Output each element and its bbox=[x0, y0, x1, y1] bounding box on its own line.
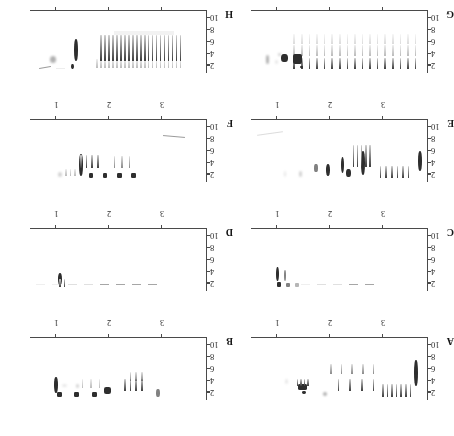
peak-blob bbox=[104, 387, 111, 394]
x-tick-label: 3 bbox=[160, 101, 164, 110]
peak-streak bbox=[56, 68, 65, 69]
x-tick-label: 1 bbox=[275, 0, 279, 1]
peak-comb bbox=[126, 372, 143, 381]
spectrum-panel-f[interactable]: 3 2 1 2 4 6 8 10 F bbox=[0, 109, 221, 218]
x-tick-label: 3 bbox=[381, 0, 385, 1]
spectrum-panel-d[interactable]: 3 2 1 2 4 6 8 10 D bbox=[0, 218, 221, 327]
peak-smear bbox=[275, 60, 278, 64]
peak-comb bbox=[379, 384, 411, 397]
y-tick-label: 8 bbox=[431, 353, 445, 362]
peak-streak bbox=[39, 66, 51, 69]
spectrum-panel-g[interactable]: 4 3 2 1 2 4 6 8 10 G kHz bbox=[221, 0, 442, 109]
peak-comb bbox=[295, 379, 309, 386]
peak-smear bbox=[323, 392, 327, 396]
x-tick-label: 1 bbox=[54, 0, 58, 1]
peak-blob bbox=[418, 151, 422, 171]
peak-comb bbox=[328, 379, 374, 391]
peak-comb bbox=[98, 35, 182, 61]
y-tick-label: 6 bbox=[431, 147, 445, 156]
peak-blob bbox=[131, 173, 136, 178]
x-tick-label: 2 bbox=[107, 101, 111, 110]
baseline-streak bbox=[257, 131, 283, 136]
plot-frame: 4 3 2 1 2 4 6 8 10 G kHz bbox=[251, 10, 428, 73]
peak-blob bbox=[89, 173, 94, 178]
peak-comb bbox=[108, 156, 131, 168]
panel-label-g: G bbox=[446, 9, 454, 20]
peak-comb bbox=[287, 58, 416, 69]
peak-smear bbox=[266, 55, 269, 64]
peak-blob bbox=[277, 282, 281, 287]
x-tick-label: 3 bbox=[381, 101, 385, 110]
panel-label-e: E bbox=[447, 118, 454, 129]
peak-comb bbox=[287, 34, 416, 44]
spectrum-content bbox=[30, 120, 206, 182]
y-tick-label: 4 bbox=[431, 159, 445, 168]
spectrum-panel-b[interactable]: 3 2 1 2 4 6 8 10 B bbox=[0, 327, 221, 436]
plot-frame: 3 2 1 2 4 6 8 10 B bbox=[30, 337, 207, 400]
x-tick-label: 3 bbox=[381, 319, 385, 328]
x-tick-label: 3 bbox=[160, 319, 164, 328]
peak-smear bbox=[278, 53, 281, 56]
x-tick-label: 2 bbox=[328, 210, 332, 219]
peak-blob bbox=[74, 39, 78, 61]
x-tick-label: 1 bbox=[54, 210, 58, 219]
y-tick-label: 4 bbox=[431, 268, 445, 277]
y-tick-label: 2 bbox=[431, 61, 445, 70]
y-tick-label: 6 bbox=[431, 365, 445, 374]
peak-blob bbox=[300, 66, 303, 69]
spectrum-panel-h[interactable]: 3 2 1 2 4 6 8 10 H bbox=[0, 0, 221, 109]
spectrum-content bbox=[251, 229, 427, 291]
spectrum-panel-a[interactable]: 3 2 1 2 4 6 8 10 A bbox=[221, 327, 442, 436]
peak-blob bbox=[302, 391, 306, 394]
peak-blob bbox=[295, 283, 299, 287]
peak-blob bbox=[286, 283, 290, 287]
spectrum-content bbox=[251, 338, 427, 400]
peak-blob bbox=[326, 164, 330, 176]
peak-blob bbox=[346, 169, 351, 177]
dashed-ridge bbox=[301, 284, 374, 285]
y-tick-label: 4 bbox=[431, 50, 445, 59]
peak-smear bbox=[50, 56, 56, 63]
peak-smear bbox=[58, 172, 62, 177]
plot-frame: 3 2 1 2 4 6 8 10 E bbox=[251, 119, 428, 182]
plot-frame: 3 2 1 2 4 6 8 10 H bbox=[30, 10, 207, 73]
peak-comb bbox=[76, 155, 98, 168]
dashed-ridge bbox=[36, 284, 157, 285]
peak-blob bbox=[57, 392, 62, 397]
spectrum-content bbox=[251, 11, 427, 73]
spectrum-panel-e[interactable]: 3 2 1 2 4 6 8 10 E bbox=[221, 109, 442, 218]
y-tick-label: 6 bbox=[431, 256, 445, 265]
y-tick-label: 8 bbox=[431, 26, 445, 35]
spectrum-content bbox=[30, 338, 206, 400]
peak-blob bbox=[71, 64, 74, 69]
peak-comb bbox=[287, 45, 416, 56]
x-tick-label: 2 bbox=[328, 0, 332, 1]
peak-blob bbox=[92, 392, 97, 397]
peak-blob bbox=[74, 392, 79, 397]
spectrum-panel-c[interactable]: 3 2 1 2 4 6 8 10 C bbox=[221, 218, 442, 327]
y-tick-label: 2 bbox=[431, 170, 445, 179]
x-tick-label: 1 bbox=[54, 101, 58, 110]
peak-blob bbox=[117, 173, 122, 178]
y-tick-label: 4 bbox=[431, 377, 445, 386]
peak-comb bbox=[376, 166, 410, 178]
peak-smear bbox=[62, 384, 67, 387]
x-tick-label: 1 bbox=[275, 210, 279, 219]
plot-frame: 3 2 1 2 4 6 8 10 C bbox=[251, 228, 428, 291]
x-tick-label: 2 bbox=[328, 101, 332, 110]
peak-comb bbox=[321, 364, 374, 374]
panel-label-c: C bbox=[447, 227, 454, 238]
peak-smear bbox=[284, 171, 287, 177]
peak-smear bbox=[299, 171, 302, 177]
x-tick-label: 3 bbox=[381, 210, 385, 219]
peak-smear bbox=[285, 379, 288, 384]
y-tick-label: 2 bbox=[431, 279, 445, 288]
peak-comb bbox=[62, 169, 76, 176]
x-tick-label: 2 bbox=[107, 319, 111, 328]
plot-frame: 3 2 1 2 4 6 8 10 A bbox=[251, 337, 428, 400]
plot-frame: 3 2 1 2 4 6 8 10 D bbox=[30, 228, 207, 291]
x-tick-label: 1 bbox=[275, 319, 279, 328]
peak-blob bbox=[293, 54, 302, 64]
x-tick-label: 1 bbox=[275, 101, 279, 110]
